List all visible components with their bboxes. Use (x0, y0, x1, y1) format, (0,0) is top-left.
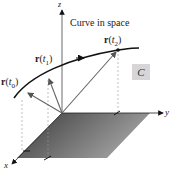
point-r-t2 (116, 48, 120, 52)
z-axis-label: z (58, 1, 61, 9)
y-axis-label: y (165, 108, 169, 117)
vector-r-t1 (49, 79, 62, 113)
curve-in-space-diagram: z Curve in space r(t2) r(t1) r(t0) C y x (0, 0, 177, 171)
curve-c (14, 48, 139, 98)
xy-plane (17, 113, 150, 158)
label-r-t2: r(t2) (104, 35, 121, 48)
diagram-title: Curve in space (70, 18, 129, 28)
curve-label-c: C (132, 64, 150, 80)
label-r-t0: r(t0) (1, 77, 18, 90)
x-axis-label: x (4, 161, 8, 170)
label-r-t1: r(t1) (35, 54, 52, 67)
vector-r-t0 (28, 93, 62, 113)
